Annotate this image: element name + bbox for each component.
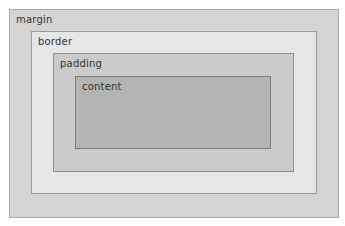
margin-label: margin	[16, 14, 52, 25]
content-box: content	[75, 76, 271, 149]
border-label: border	[38, 36, 72, 47]
padding-label: padding	[60, 58, 102, 69]
content-label: content	[82, 81, 122, 92]
